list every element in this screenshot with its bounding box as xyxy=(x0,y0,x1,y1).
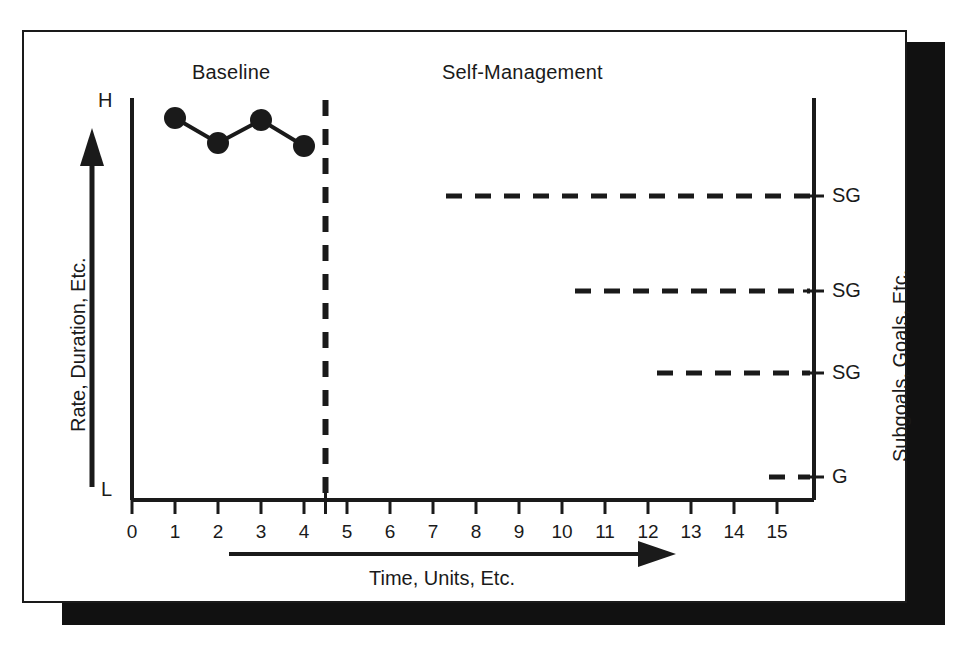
x-tick-label-1: 1 xyxy=(165,522,185,541)
chart-canvas xyxy=(24,32,909,605)
screenshot-root: Baseline Self-Management H L Rate, Durat… xyxy=(0,0,967,647)
x-tick-label-14: 14 xyxy=(719,522,749,541)
x-tick-label-8: 8 xyxy=(466,522,486,541)
right-axis-label-sg-1: SG xyxy=(832,185,861,205)
phase-label-self-management: Self-Management xyxy=(442,62,603,82)
x-tick-label-15: 15 xyxy=(762,522,792,541)
baseline-data-path xyxy=(175,118,304,146)
data-point xyxy=(293,135,315,157)
data-point xyxy=(164,107,186,129)
data-point xyxy=(207,132,229,154)
y-axis-low-label: L xyxy=(101,479,112,499)
phase-label-baseline: Baseline xyxy=(192,62,270,82)
x-tick-label-7: 7 xyxy=(423,522,443,541)
x-axis-ticks xyxy=(132,500,777,514)
x-tick-label-3: 3 xyxy=(251,522,271,541)
right-axis-title: Subgoals, Goals, Etc. xyxy=(890,270,910,462)
right-axis-label-sg-3: SG xyxy=(832,362,861,382)
x-tick-label-2: 2 xyxy=(208,522,228,541)
right-axis-label-goal: G xyxy=(832,466,848,486)
x-tick-label-6: 6 xyxy=(380,522,400,541)
data-point xyxy=(250,109,272,131)
plot-area: Baseline Self-Management H L Rate, Durat… xyxy=(24,32,909,605)
figure-frame: Baseline Self-Management H L Rate, Durat… xyxy=(22,30,907,603)
x-tick-label-11: 11 xyxy=(590,522,620,541)
right-axis-label-sg-2: SG xyxy=(832,280,861,300)
x-tick-label-9: 9 xyxy=(509,522,529,541)
y-axis-high-label: H xyxy=(98,90,112,110)
x-tick-label-5: 5 xyxy=(337,522,357,541)
x-tick-label-12: 12 xyxy=(633,522,663,541)
x-axis-arrow-head-icon xyxy=(638,541,676,567)
y-axis-arrow-head-icon xyxy=(80,128,104,166)
x-tick-label-4: 4 xyxy=(294,522,314,541)
y-axis-title: Rate, Duration, Etc. xyxy=(68,257,88,432)
x-axis-title: Time, Units, Etc. xyxy=(369,568,515,588)
x-tick-label-13: 13 xyxy=(676,522,706,541)
x-tick-label-10: 10 xyxy=(547,522,577,541)
x-tick-label-0: 0 xyxy=(122,522,142,541)
